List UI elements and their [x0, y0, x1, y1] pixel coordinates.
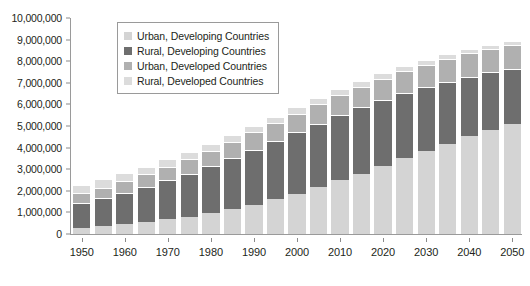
population-stacked-bar-chart: 01,000,0002,000,0003,000,0004,000,0005,0… — [0, 0, 530, 286]
bar-segment — [418, 87, 435, 151]
x-tick-mark — [426, 238, 427, 242]
legend-swatch-icon — [124, 32, 132, 40]
bar-segment — [116, 181, 133, 193]
legend-item: Rural, Developing Countries — [124, 43, 269, 58]
bar-segment — [396, 158, 413, 234]
legend-swatch-icon — [124, 62, 132, 70]
bar-1980 — [202, 144, 219, 235]
legend-item: Urban, Developed Countries — [124, 58, 269, 73]
y-tick-label: 7,000,000 — [17, 77, 62, 89]
x-tick-mark — [82, 238, 83, 242]
bar-2040 — [461, 49, 478, 234]
bar-segment — [288, 132, 305, 193]
bar-2000 — [288, 107, 305, 234]
bar-segment — [159, 159, 176, 167]
legend-label: Rural, Developed Countries — [137, 75, 263, 87]
bar-1985 — [224, 135, 241, 234]
bar-segment — [95, 226, 112, 234]
bar-1955 — [95, 179, 112, 234]
x-tick-mark — [469, 238, 470, 242]
bar-segment — [504, 45, 521, 69]
bar-segment — [95, 188, 112, 199]
y-tick-label: 5,000,000 — [17, 120, 62, 132]
bar-1950 — [73, 185, 90, 234]
bar-segment — [418, 151, 435, 234]
bar-segment — [267, 199, 284, 234]
bar-1995 — [267, 117, 284, 235]
bar-segment — [138, 187, 155, 222]
x-tick-label: 2000 — [285, 246, 309, 258]
bar-2015 — [353, 81, 370, 234]
bar-segment — [73, 228, 90, 234]
x-tick-mark — [168, 238, 169, 242]
y-tick-label: 8,000,000 — [17, 55, 62, 67]
bar-2020 — [374, 73, 391, 234]
bar-segment — [374, 100, 391, 166]
bar-2025 — [396, 66, 413, 234]
bar-1990 — [245, 126, 262, 234]
legend-label: Urban, Developed Countries — [137, 60, 267, 72]
y-tick-label: 4,000,000 — [17, 142, 62, 154]
bar-segment — [461, 136, 478, 234]
x-tick-label: 2040 — [457, 246, 481, 258]
bar-segment — [482, 72, 499, 129]
x-tick-label: 2030 — [414, 246, 438, 258]
bar-segment — [202, 151, 219, 167]
y-tick-label: 3,000,000 — [17, 163, 62, 175]
y-tick-label: 9,000,000 — [17, 34, 62, 46]
x-tick-label: 1950 — [70, 246, 94, 258]
bar-segment — [310, 187, 327, 234]
bar-segment — [396, 93, 413, 158]
x-tick-mark — [211, 238, 212, 242]
legend-swatch-icon — [124, 77, 132, 85]
bar-1965 — [138, 167, 155, 234]
bar-segment — [73, 193, 90, 203]
bar-segment — [504, 124, 521, 234]
bar-segment — [95, 198, 112, 226]
y-tick-label: 10,000,000 — [11, 12, 62, 24]
bar-2050 — [504, 41, 521, 234]
bar-segment — [116, 173, 133, 181]
bar-segment — [461, 77, 478, 137]
x-tick-label: 1980 — [199, 246, 223, 258]
bar-segment — [224, 158, 241, 209]
x-tick-label: 2010 — [328, 246, 352, 258]
bar-segment — [202, 166, 219, 213]
bar-2010 — [331, 89, 348, 234]
x-tick-label: 1960 — [113, 246, 137, 258]
bar-segment — [482, 130, 499, 234]
bar-segment — [310, 104, 327, 123]
x-axis: 1950196019701980199020002010202020302040… — [0, 238, 530, 268]
x-tick-mark — [383, 238, 384, 242]
bar-segment — [310, 124, 327, 188]
legend-label: Urban, Developing Countries — [137, 30, 269, 42]
bar-segment — [202, 144, 219, 151]
bar-segment — [439, 144, 456, 235]
bar-segment — [396, 71, 413, 93]
bar-1960 — [116, 173, 133, 234]
bar-segment — [439, 59, 456, 82]
bar-segment — [331, 115, 348, 180]
x-axis-line — [70, 234, 522, 235]
bar-segment — [439, 82, 456, 144]
bar-segment — [374, 79, 391, 100]
bar-segment — [95, 179, 112, 187]
legend-item: Rural, Developed Countries — [124, 73, 269, 88]
bar-2035 — [439, 54, 456, 234]
chart-legend: Urban, Developing CountriesRural, Develo… — [117, 22, 279, 94]
x-tick-mark — [512, 238, 513, 242]
bar-segment — [159, 180, 176, 219]
bar-segment — [267, 123, 284, 141]
bar-segment — [288, 194, 305, 234]
y-tick-label: 6,000,000 — [17, 98, 62, 110]
x-tick-label: 2020 — [371, 246, 395, 258]
x-tick-label: 1990 — [242, 246, 266, 258]
bar-segment — [138, 167, 155, 175]
x-tick-label: 2050 — [500, 246, 524, 258]
legend-swatch-icon — [124, 47, 132, 55]
legend-label: Rural, Developing Countries — [137, 45, 266, 57]
bar-1975 — [181, 152, 198, 235]
bar-segment — [159, 167, 176, 181]
bar-2030 — [418, 60, 435, 234]
bar-segment — [202, 213, 219, 234]
